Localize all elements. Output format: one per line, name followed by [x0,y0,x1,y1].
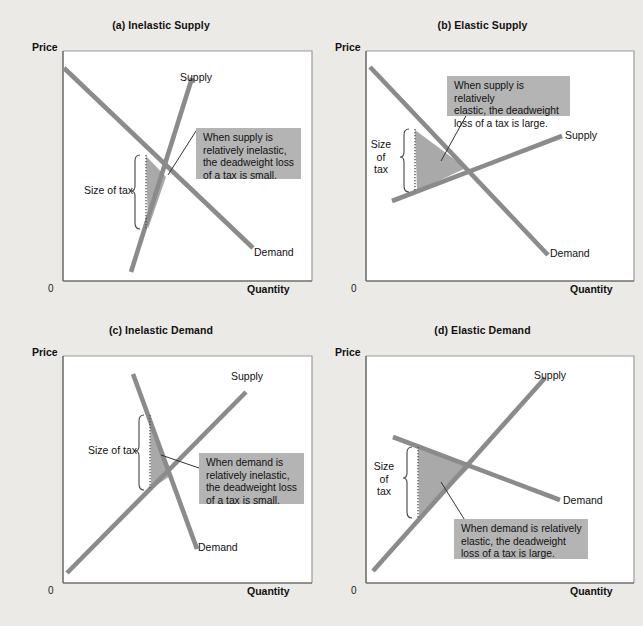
panel-b-callout-line1: When supply is relatively [454,80,564,105]
panel-c-demand-label: Demand [198,541,238,553]
panel-c-size-of-tax-label: Size of tax [88,444,137,457]
panel-b-size-of-tax-line2: of [365,151,397,164]
panel-a-callout: When supply is relatively inelastic, the… [196,128,301,179]
panel-d-demand-label: Demand [563,494,603,506]
panel-a-callout-line3: the deadweight loss [203,157,295,170]
panel-a-size-of-tax-label: Size of tax [84,184,133,197]
panel-d-callout-line2: elastic, the deadweight [461,536,582,549]
panel-b-callout-line3: loss of a tax is large. [454,118,564,131]
panel-b-supply-label: Supply [565,129,597,141]
panel-d-size-of-tax-line1: Size [368,460,400,473]
panel-d-callout-line1: When demand is relatively [461,523,582,536]
panel-a-supply-label: Supply [180,71,212,83]
panel-a-inelastic-supply: (a) Inelastic Supply Price 0 Quantity [0,0,322,313]
panel-d-size-of-tax-line2: of [368,473,400,486]
panel-d-supply-label: Supply [534,369,566,381]
panel-b-elastic-supply: (b) Elastic Supply Price 0 Quantity [322,0,643,313]
panel-b-size-of-tax-label: Size of tax [365,138,397,176]
panel-d-size-of-tax-line3: tax [368,485,400,498]
figure-deadweight-loss-elasticity: (a) Inelastic Supply Price 0 Quantity [0,0,643,626]
panel-c-callout-line4: of a tax is small. [206,495,298,508]
panel-c-callout-line3: the deadweight loss [206,482,298,495]
panel-c-callout-line1: When demand is [206,457,298,470]
panel-b-size-of-tax-line1: Size [365,138,397,151]
panel-a-callout-line2: relatively inelastic, [203,145,295,158]
panel-d-size-of-tax-label: Size of tax [368,460,400,498]
panel-a-callout-line1: When supply is [203,132,295,145]
panel-c-inelastic-demand: (c) Inelastic Demand Price 0 Quantity [0,313,322,626]
panel-a-size-of-tax-line1: Size of tax [84,184,133,196]
panel-c-size-of-tax-line1: Size of tax [88,444,137,456]
panel-c-callout: When demand is relatively inelastic, the… [199,453,304,504]
panel-c-callout-line2: relatively inelastic, [206,470,298,483]
panel-d-callout-line3: loss of a tax is large. [461,548,582,561]
panel-a-callout-line4: of a tax is small. [203,170,295,183]
panel-a-demand-label: Demand [254,246,294,258]
panel-b-demand-label: Demand [550,247,590,259]
panel-c-supply-label: Supply [231,370,263,382]
panel-b-callout: When supply is relatively elastic, the d… [447,76,570,116]
panel-b-size-of-tax-line3: tax [365,163,397,176]
panel-d-elastic-demand: (d) Elastic Demand Price 0 Quantity [322,313,643,626]
panel-b-callout-line2: elastic, the deadweight [454,105,564,118]
panel-d-callout: When demand is relatively elastic, the d… [454,519,588,559]
